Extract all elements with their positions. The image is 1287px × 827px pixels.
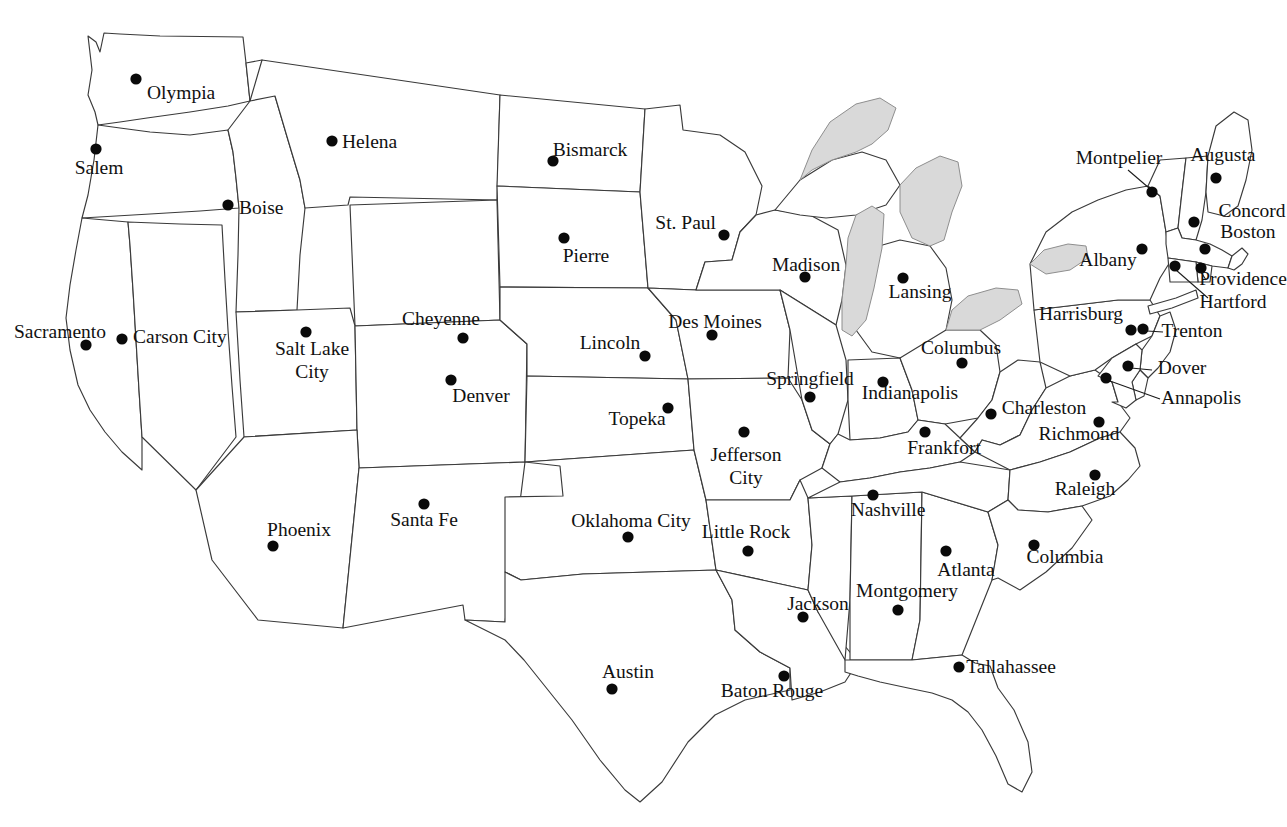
state-south-dakota	[497, 186, 648, 288]
capital-label-albany: Albany	[1079, 249, 1137, 270]
capital-label-cheyenne: Cheyenne	[402, 308, 480, 329]
capital-dot-phoenix[interactable]	[267, 540, 278, 551]
capital-label-santa-fe: Santa Fe	[390, 509, 458, 530]
capital-label-annapolis: Annapolis	[1161, 387, 1241, 408]
capital-label-montpelier: Montpelier	[1076, 147, 1163, 168]
state-washington	[88, 33, 250, 125]
state-new-mexico	[343, 462, 525, 628]
capital-dot-augusta[interactable]	[1210, 172, 1221, 183]
capital-label-helena: Helena	[342, 131, 398, 152]
capital-label-springfield: Springfield	[766, 368, 854, 389]
state-south-carolina	[988, 500, 1092, 590]
capital-dot-springfield[interactable]	[804, 391, 815, 402]
capital-dot-tallahassee[interactable]	[953, 661, 964, 672]
capital-dot-carson-city[interactable]	[116, 333, 127, 344]
capital-dot-st-paul[interactable]	[718, 229, 729, 240]
capital-dot-frankfort[interactable]	[919, 426, 930, 437]
capital-label-oklahoma-city: Oklahoma City	[571, 510, 691, 531]
capital-dot-dover[interactable]	[1122, 360, 1133, 371]
capital-dot-trenton[interactable]	[1137, 323, 1148, 334]
capital-dot-oklahoma-city[interactable]	[622, 531, 633, 542]
capital-label-trenton: Trenton	[1161, 320, 1222, 341]
cape-cod	[1228, 248, 1248, 270]
capital-label-columbia: Columbia	[1027, 546, 1104, 567]
capital-label-line: Jefferson	[710, 444, 781, 465]
capital-dot-cheyenne[interactable]	[457, 332, 468, 343]
capital-dot-jefferson-city[interactable]	[738, 426, 749, 437]
capital-label-phoenix: Phoenix	[267, 519, 331, 540]
capital-label-salem: Salem	[75, 157, 124, 178]
capital-label-harrisburg: Harrisburg	[1039, 303, 1123, 324]
capital-label-richmond: Richmond	[1038, 423, 1119, 444]
capital-label-augusta: Augusta	[1191, 144, 1256, 165]
capital-label-st-paul: St. Paul	[655, 212, 716, 233]
capital-label-dover: Dover	[1158, 357, 1207, 378]
capital-dot-hartford[interactable]	[1169, 260, 1180, 271]
capital-label-tallahassee: Tallahassee	[966, 656, 1056, 677]
long-island	[1148, 290, 1198, 314]
capital-dot-salt-lake-city[interactable]	[300, 326, 311, 337]
capital-dot-little-rock[interactable]	[742, 545, 753, 556]
capital-label-madison: Madison	[772, 254, 841, 275]
capital-label-boston: Boston	[1220, 221, 1276, 242]
capital-dot-helena[interactable]	[326, 135, 337, 146]
capital-label-charleston: Charleston	[1002, 397, 1087, 418]
capital-label-boise: Boise	[239, 197, 283, 218]
capital-label-line: City	[729, 467, 763, 488]
capital-dot-denver[interactable]	[445, 374, 456, 385]
capital-dot-lincoln[interactable]	[639, 350, 650, 361]
capital-label-austin: Austin	[602, 661, 654, 682]
lake-huron	[900, 156, 962, 246]
capital-dot-pierre[interactable]	[558, 232, 569, 243]
capital-label-hartford: Hartford	[1199, 291, 1266, 312]
capital-label-atlanta: Atlanta	[937, 559, 995, 580]
capital-label-jackson: Jackson	[787, 593, 849, 614]
lake-erie	[946, 288, 1022, 330]
capital-label-line: City	[295, 361, 329, 382]
capital-dot-albany[interactable]	[1136, 243, 1147, 254]
capital-label-carson-city: Carson City	[133, 326, 227, 347]
capital-label-indianapolis: Indianapolis	[862, 382, 958, 403]
us-capitals-map-container: OlympiaSalemBoiseHelenaBismarckPierreSt.…	[0, 0, 1287, 827]
capital-dot-salem[interactable]	[90, 143, 101, 154]
capital-label-denver: Denver	[452, 385, 510, 406]
capital-dot-boise[interactable]	[222, 199, 233, 210]
capital-dot-annapolis[interactable]	[1100, 372, 1111, 383]
capital-label-frankfort: Frankfort	[907, 437, 981, 458]
capital-dot-montgomery[interactable]	[892, 604, 903, 615]
capital-label-sacramento: Sacramento	[14, 321, 106, 342]
capital-label-baton-rouge: Baton Rouge	[721, 680, 823, 701]
capital-label-pierre: Pierre	[563, 245, 610, 266]
capital-dot-concord[interactable]	[1188, 216, 1199, 227]
capital-label-olympia: Olympia	[147, 82, 216, 103]
capital-dot-boston[interactable]	[1199, 243, 1210, 254]
state-nevada	[128, 222, 236, 490]
us-map-svg: OlympiaSalemBoiseHelenaBismarckPierreSt.…	[0, 0, 1287, 827]
capital-label-lansing: Lansing	[889, 281, 952, 302]
capital-dot-austin[interactable]	[606, 683, 617, 694]
capital-label-little-rock: Little Rock	[702, 521, 791, 542]
state-michigan-upper	[775, 152, 900, 218]
capital-label-nashville: Nashville	[851, 499, 926, 520]
capital-label-lincoln: Lincoln	[580, 332, 641, 353]
capital-dot-santa-fe[interactable]	[418, 498, 429, 509]
capital-label-raleigh: Raleigh	[1055, 478, 1116, 499]
capital-label-columbus: Columbus	[921, 337, 1001, 358]
capital-label-bismarck: Bismarck	[553, 139, 628, 160]
capital-label-montgomery: Montgomery	[856, 580, 958, 601]
capital-label-concord: Concord	[1218, 200, 1285, 221]
capital-dot-atlanta[interactable]	[940, 545, 951, 556]
capital-dot-charleston[interactable]	[985, 408, 996, 419]
leader-line-montpelier	[1128, 170, 1149, 188]
capital-dot-olympia[interactable]	[130, 73, 141, 84]
capital-dot-harrisburg[interactable]	[1125, 324, 1136, 335]
capital-label-providence: Providence	[1199, 268, 1287, 289]
capital-label-des-moines: Des Moines	[668, 311, 762, 332]
capital-label-topeka: Topeka	[608, 408, 665, 429]
capital-dot-columbus[interactable]	[956, 357, 967, 368]
capital-label-line: Salt Lake	[275, 338, 349, 359]
capital-dot-montpelier[interactable]	[1146, 186, 1157, 197]
